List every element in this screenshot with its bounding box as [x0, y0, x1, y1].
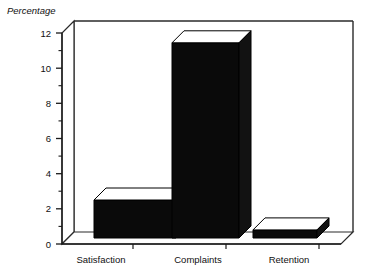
x-axis-category-labels: Satisfaction Complaints Retention [76, 254, 309, 265]
y-tick-label-4: 4 [46, 168, 51, 179]
bar-retention [253, 218, 329, 238]
y-tick-label-8: 8 [46, 98, 51, 109]
x-label-complaints: Complaints [174, 254, 222, 265]
bar-complaints [172, 31, 251, 238]
bar-complaints-side [239, 31, 251, 238]
y-tick-label-10: 10 [40, 63, 51, 74]
y-axis-tick-labels: 0 2 4 6 8 10 12 [40, 28, 51, 250]
bar-chart: 0 2 4 6 8 10 12 Percentage [0, 0, 368, 279]
y-axis-ticks [56, 33, 62, 244]
y-axis-title: Percentage [7, 5, 56, 16]
x-label-retention: Retention [269, 254, 310, 265]
y-tick-label-12: 12 [40, 28, 51, 39]
chart-canvas: 0 2 4 6 8 10 12 Percentage [0, 0, 368, 279]
x-label-satisfaction: Satisfaction [76, 254, 125, 265]
bar-satisfaction-front [94, 200, 176, 238]
y-tick-label-6: 6 [46, 133, 51, 144]
y-tick-label-0: 0 [46, 239, 51, 250]
left-side-wall [62, 21, 74, 244]
x-axis-ticks [133, 244, 319, 249]
bar-retention-front [253, 230, 317, 238]
bar-complaints-top [172, 31, 251, 43]
bar-retention-top [253, 218, 329, 230]
y-tick-label-2: 2 [46, 203, 51, 214]
bar-complaints-front [172, 43, 239, 238]
